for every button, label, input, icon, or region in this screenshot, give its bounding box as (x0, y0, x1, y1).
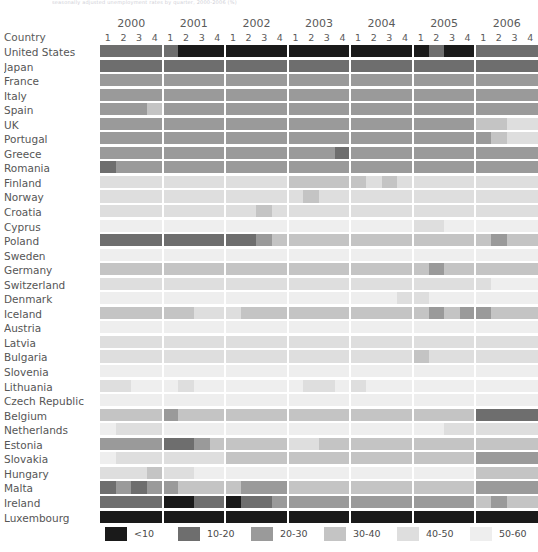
heatmap-cell (241, 220, 257, 232)
heatmap-cell (100, 467, 116, 479)
heatmap-cell (319, 292, 335, 304)
heatmap-cell (460, 481, 476, 493)
heatmap-cell (256, 380, 272, 392)
heatmap-cell (147, 452, 163, 464)
heatmap-cell (475, 292, 491, 304)
heatmap-cell (225, 176, 241, 188)
heatmap-cell (116, 496, 132, 508)
heatmap-cell (366, 74, 382, 86)
heatmap-cell (256, 511, 272, 523)
quarter-header-2004-q4: 4 (397, 31, 413, 44)
heatmap-row (100, 496, 538, 511)
heatmap-cell (256, 423, 272, 435)
heatmap-cell (366, 60, 382, 72)
heatmap-cell (241, 161, 257, 173)
heatmap-cell (116, 118, 132, 130)
heatmap-cell (413, 249, 429, 261)
heatmap-cell (335, 467, 351, 479)
heatmap-cell (413, 118, 429, 130)
heatmap-cell (256, 74, 272, 86)
heatmap-cell (272, 103, 288, 115)
heatmap-cell (241, 147, 257, 159)
heatmap-cell (178, 467, 194, 479)
heatmap-cell (491, 190, 507, 202)
heatmap-cell (163, 452, 179, 464)
heatmap-cell (163, 496, 179, 508)
heatmap-cell (288, 365, 304, 377)
year-header-2000: 2000 (100, 17, 163, 30)
heatmap-cell (131, 423, 147, 435)
heatmap-cell (475, 307, 491, 319)
heatmap-cell (507, 409, 523, 421)
heatmap-cell (460, 60, 476, 72)
heatmap-cell (100, 336, 116, 348)
heatmap-cell (382, 205, 398, 217)
heatmap-cell (522, 263, 538, 275)
heatmap-cell (522, 190, 538, 202)
heatmap-cell (335, 336, 351, 348)
heatmap-cell (163, 423, 179, 435)
heatmap-cell (366, 394, 382, 406)
heatmap-cell (413, 74, 429, 86)
heatmap-cell (131, 132, 147, 144)
year-separator (349, 45, 351, 525)
heatmap-cell (366, 307, 382, 319)
heatmap-cell (335, 438, 351, 450)
heatmap-cell (522, 103, 538, 115)
heatmap-cell (241, 365, 257, 377)
heatmap-cell (225, 438, 241, 450)
heatmap-cell (475, 60, 491, 72)
heatmap-cell (131, 409, 147, 421)
heatmap-cell (100, 380, 116, 392)
heatmap-cell (382, 467, 398, 479)
heatmap-cell (522, 307, 538, 319)
heatmap-cell (256, 161, 272, 173)
heatmap-cell (429, 45, 445, 57)
heatmap-cell (272, 161, 288, 173)
heatmap-cell (382, 380, 398, 392)
heatmap-cell (507, 234, 523, 246)
heatmap-cell (366, 423, 382, 435)
heatmap-cell (100, 234, 116, 246)
quarter-header-2000-q4: 4 (147, 31, 163, 44)
heatmap-cell (241, 45, 257, 57)
heatmap-cell (116, 176, 132, 188)
heatmap-cell (100, 307, 116, 319)
heatmap-cell (507, 365, 523, 377)
heatmap-cell (194, 496, 210, 508)
heatmap-cell (319, 467, 335, 479)
heatmap-cell (116, 380, 132, 392)
country-label-column: United StatesJapanFranceItalySpainUKPort… (4, 45, 98, 525)
year-separator (162, 45, 164, 525)
heatmap-cell (413, 45, 429, 57)
heatmap-cell (491, 496, 507, 508)
heatmap-cell (475, 365, 491, 377)
heatmap-cell (210, 190, 226, 202)
heatmap-cell (350, 336, 366, 348)
country-label: Romania (4, 161, 98, 176)
heatmap-cell (272, 380, 288, 392)
heatmap-cell (335, 249, 351, 261)
heatmap-cell (397, 45, 413, 57)
heatmap-cell (100, 205, 116, 217)
heatmap-cell (382, 336, 398, 348)
heatmap-cell (147, 511, 163, 523)
heatmap-cell (522, 118, 538, 130)
heatmap-cell (116, 307, 132, 319)
heatmap-cell (319, 89, 335, 101)
heatmap-cell (335, 161, 351, 173)
heatmap-cell (272, 147, 288, 159)
quarter-header-row: 1234123412341234123412341234 (100, 31, 538, 44)
heatmap-cell (131, 365, 147, 377)
heatmap-cell (382, 161, 398, 173)
heatmap-cell (116, 452, 132, 464)
heatmap-cell (272, 263, 288, 275)
heatmap-cell (147, 278, 163, 290)
heatmap-row (100, 511, 538, 526)
heatmap-cell (163, 380, 179, 392)
heatmap-cell (335, 307, 351, 319)
heatmap-cell (131, 249, 147, 261)
heatmap-cell (444, 205, 460, 217)
heatmap-cell (397, 394, 413, 406)
heatmap-cell (241, 292, 257, 304)
